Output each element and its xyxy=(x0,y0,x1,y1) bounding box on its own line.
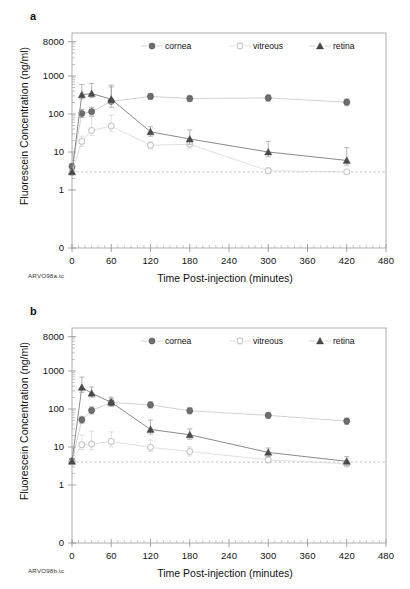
data-point-cornea xyxy=(89,407,95,413)
data-point-retina xyxy=(88,390,95,397)
x-tick-label: 0 xyxy=(69,255,74,266)
legend: corneavitreousretina xyxy=(141,41,355,51)
legend-marker-retina xyxy=(316,42,323,49)
data-point-cornea xyxy=(265,412,271,418)
data-point-vitreous xyxy=(79,442,85,448)
data-point-cornea xyxy=(79,417,85,423)
x-tick-label: 300 xyxy=(260,255,276,266)
series-vitreous xyxy=(69,431,350,467)
legend-marker-vitreous xyxy=(237,338,243,344)
x-tick-label: 360 xyxy=(300,255,316,266)
x-tick-label: 360 xyxy=(300,550,316,561)
legend-label-retina: retina xyxy=(333,41,355,51)
data-point-vitreous xyxy=(79,139,85,145)
legend-marker-cornea xyxy=(149,43,155,49)
series-vitreous xyxy=(69,115,350,175)
x-tick-label: 60 xyxy=(106,550,117,561)
axis-frame xyxy=(72,328,386,543)
x-tick-label: 420 xyxy=(339,550,355,561)
data-point-cornea xyxy=(147,402,153,408)
data-point-retina xyxy=(78,384,85,391)
x-axis-ticks: 060120180240300360420480 xyxy=(69,539,394,561)
y-tick-label: 8000 xyxy=(43,331,64,342)
y-tick-label: 1000 xyxy=(43,365,64,376)
data-point-cornea xyxy=(265,95,271,101)
legend-label-cornea: cornea xyxy=(165,336,191,346)
legend-label-vitreous: vitreous xyxy=(253,41,283,51)
x-tick-label: 60 xyxy=(106,255,117,266)
data-point-vitreous xyxy=(187,449,193,455)
data-point-cornea xyxy=(187,408,193,414)
data-point-vitreous xyxy=(148,444,154,450)
x-tick-label: 420 xyxy=(339,255,355,266)
legend: corneavitreousretina xyxy=(141,336,355,346)
data-point-vitreous xyxy=(265,168,271,174)
y-tick-label: 1000 xyxy=(43,70,64,81)
y-tick-label: 8000 xyxy=(43,36,64,47)
data-point-retina xyxy=(147,426,154,433)
data-point-vitreous xyxy=(265,457,271,463)
y-tick-label-zero: 0 xyxy=(59,242,64,253)
series-cornea xyxy=(69,398,350,464)
y-tick-label: 100 xyxy=(48,108,64,119)
data-point-vitreous xyxy=(108,123,114,129)
legend-marker-retina xyxy=(316,337,323,344)
legend-marker-vitreous xyxy=(237,43,243,49)
y-tick-label: 10 xyxy=(53,146,64,157)
legend-label-cornea: cornea xyxy=(165,41,191,51)
x-axis-ticks: 060120180240300360420480 xyxy=(69,244,394,266)
x-tick-label: 300 xyxy=(260,550,276,561)
y-tick-label: 100 xyxy=(48,403,64,414)
data-point-retina xyxy=(88,90,95,97)
data-point-cornea xyxy=(89,109,95,115)
data-point-cornea xyxy=(147,93,153,99)
y-tick-label: 10 xyxy=(53,441,64,452)
x-tick-label: 120 xyxy=(143,550,159,561)
x-tick-label: 180 xyxy=(182,550,198,561)
legend-marker-cornea xyxy=(149,338,155,344)
panel-a: a Fluorescein Concentration (ng/ml) Time… xyxy=(0,0,410,294)
plot-area-b: 800010001001010060120180240300360420480c… xyxy=(0,295,410,589)
x-tick-label: 120 xyxy=(143,255,159,266)
data-point-vitreous xyxy=(344,169,350,175)
legend-label-retina: retina xyxy=(333,336,355,346)
data-point-vitreous xyxy=(89,441,95,447)
y-axis-ticks: 800010001001010 xyxy=(43,36,76,253)
series-retina xyxy=(68,377,350,465)
data-point-cornea xyxy=(344,99,350,105)
x-tick-label: 480 xyxy=(378,550,394,561)
legend-label-vitreous: vitreous xyxy=(253,336,283,346)
panel-b: b Fluorescein Concentration (ng/ml) Time… xyxy=(0,295,410,589)
x-tick-label: 480 xyxy=(378,255,394,266)
x-tick-label: 0 xyxy=(69,550,74,561)
y-tick-label: 1 xyxy=(59,479,64,490)
data-point-cornea xyxy=(187,95,193,101)
x-tick-label: 180 xyxy=(182,255,198,266)
data-point-vitreous xyxy=(148,142,154,148)
data-point-vitreous xyxy=(108,439,114,445)
plot-area-a: 800010001001010060120180240300360420480c… xyxy=(0,0,410,294)
x-tick-label: 240 xyxy=(221,255,237,266)
y-axis-ticks: 800010001001010 xyxy=(43,331,76,548)
data-point-cornea xyxy=(344,418,350,424)
y-tick-label: 1 xyxy=(59,184,64,195)
data-point-vitreous xyxy=(89,128,95,134)
figure-root: a Fluorescein Concentration (ng/ml) Time… xyxy=(0,0,410,589)
x-tick-label: 240 xyxy=(221,550,237,561)
axis-frame xyxy=(72,33,386,248)
y-tick-label-zero: 0 xyxy=(59,537,64,548)
